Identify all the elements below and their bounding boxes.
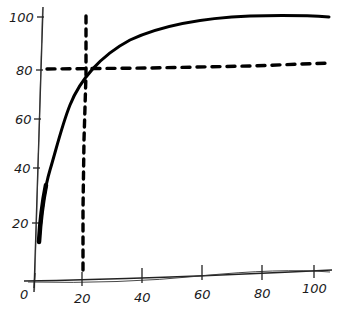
horizontal-reference-line (47, 63, 330, 69)
x-axis (24, 265, 332, 288)
y-tick-label-60: 60 (15, 112, 32, 127)
x-tick-label-80: 80 (254, 286, 271, 301)
y-tick-label-40: 40 (14, 161, 31, 176)
y-tick-labels: 100 80 60 40 20 (9, 10, 34, 231)
saturation-line-chart: 100 80 60 40 20 0 20 40 60 80 100 (0, 0, 341, 313)
curve-start-thick-segment (39, 185, 46, 242)
y-axis (32, 7, 44, 292)
x-tick-labels: 0 20 40 60 80 100 (20, 281, 327, 306)
saturation-curve (39, 16, 329, 242)
x-tick-label-20: 20 (74, 291, 91, 306)
x-tick-label-100: 100 (302, 281, 327, 296)
y-tick-label-100: 100 (9, 10, 34, 25)
x-tick-label-60: 60 (194, 287, 211, 302)
y-tick-label-20: 20 (12, 216, 29, 231)
x-tick-label-0: 0 (20, 287, 28, 302)
y-tick-label-80: 80 (16, 63, 33, 78)
x-tick-label-40: 40 (134, 290, 151, 305)
vertical-reference-line (83, 16, 86, 272)
